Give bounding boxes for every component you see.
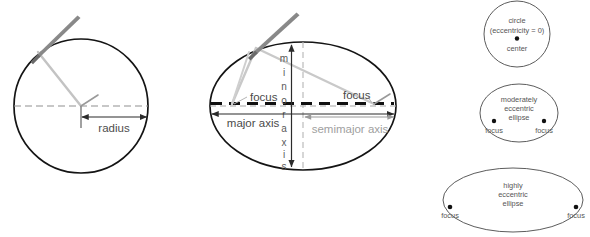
- diagram-svg: radius m i n o r a x i s: [0, 0, 590, 237]
- compass-radius-leg: [38, 52, 81, 106]
- eccentricity-circle-line-2: (eccentricity = 0): [490, 26, 544, 35]
- compass-pencil-shaft: [37, 16, 81, 58]
- shape-highly-eccentric-ellipse: highly eccentric ellipse focus focus: [441, 168, 585, 232]
- minor-axis-letter: m: [280, 53, 288, 64]
- minor-axis-label: m i n o r a x i s: [280, 53, 288, 172]
- minor-axis-letter: o: [281, 95, 287, 106]
- diagram-canvas: radius m i n o r a x i s: [0, 0, 590, 237]
- moderate-focus-label-left: focus: [485, 126, 503, 135]
- eccentricity-examples-panel: circle (eccentricity = 0) center moderat…: [441, 1, 585, 232]
- shape-circle-eccentricity-zero: circle (eccentricity = 0) center: [484, 1, 550, 67]
- ellipse-construction-panel: m i n o r a x i s major axis semimajor a…: [210, 13, 396, 173]
- ellipse-pencil-shaft: [254, 13, 300, 55]
- eccentricity-circle-line-1: circle: [508, 16, 525, 25]
- focus-dot-left: [448, 205, 453, 210]
- center-point-dot: [515, 36, 519, 40]
- major-axis-text-label: major axis: [227, 117, 280, 129]
- minor-axis-letter: n: [281, 81, 287, 92]
- semimajor-axis-text-label: semimajor axis: [312, 123, 389, 135]
- compass-hinge-arm: [81, 95, 98, 106]
- moderate-ellipse-line-1: moderately: [501, 95, 538, 104]
- string-secondary-left: [232, 52, 249, 104]
- minor-axis-letter: i: [283, 67, 285, 78]
- circle-construction-panel: radius: [14, 16, 148, 174]
- focus-dot-left: [492, 119, 496, 123]
- focus-dot-right: [574, 205, 579, 210]
- minor-axis-letter: i: [283, 149, 285, 160]
- radius-label: radius: [98, 122, 130, 134]
- highly-ellipse-line-3: ellipse: [503, 199, 524, 208]
- moderate-focus-label-right: focus: [535, 126, 553, 135]
- moderate-ellipse-line-2: eccentric: [504, 104, 534, 113]
- highly-focus-label-left: focus: [441, 211, 459, 220]
- highly-ellipse-line-1: highly: [503, 181, 523, 190]
- focus-label-right: focus: [343, 89, 371, 101]
- shape-moderately-eccentric-ellipse: moderately eccentric ellipse focus focus: [480, 84, 558, 142]
- left-focus-leader-line: [234, 97, 247, 104]
- moderate-ellipse-line-3: ellipse: [509, 113, 530, 122]
- center-point-label: center: [507, 44, 528, 53]
- highly-ellipse-line-2: eccentric: [498, 190, 528, 199]
- minor-axis-letter: a: [281, 123, 287, 134]
- minor-axis-letter: s: [282, 161, 287, 172]
- focus-label-left: focus: [250, 91, 278, 103]
- highly-focus-label-right: focus: [567, 211, 585, 220]
- focus-dot-right: [542, 119, 546, 123]
- minor-axis-letter: x: [282, 137, 287, 148]
